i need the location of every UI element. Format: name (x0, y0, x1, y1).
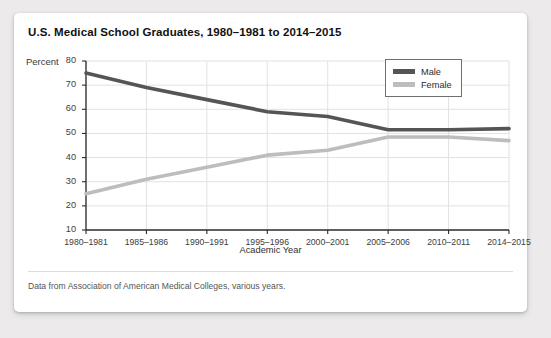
legend-item-female: Female (393, 78, 452, 91)
chart-card: U.S. Medical School Graduates, 1980–1981… (14, 13, 527, 312)
chart-legend: Male Female (385, 59, 462, 97)
y-axis-tick-label: 10 (56, 224, 76, 234)
legend-swatch-male-icon (393, 69, 415, 74)
line-chart-svg (14, 13, 527, 312)
y-axis-tick-label: 50 (56, 127, 76, 137)
y-axis-tick-label: 40 (56, 152, 76, 162)
legend-label-female: Female (421, 80, 452, 90)
y-axis-tick-label: 60 (56, 103, 76, 113)
chart-source-note: Data from Association of American Medica… (28, 281, 285, 291)
chart-plot-area: 10203040506070801980–19811985–19861990–1… (14, 13, 527, 312)
y-axis-tick-label: 70 (56, 79, 76, 89)
legend-item-male: Male (393, 65, 452, 78)
legend-swatch-female-icon (393, 82, 415, 87)
y-axis-tick-label: 20 (56, 200, 76, 210)
legend-label-male: Male (421, 67, 441, 77)
footnote-divider (28, 271, 513, 272)
x-axis-title: Academic Year (14, 245, 527, 255)
y-axis-tick-label: 80 (56, 55, 76, 65)
y-axis-tick-label: 30 (56, 176, 76, 186)
